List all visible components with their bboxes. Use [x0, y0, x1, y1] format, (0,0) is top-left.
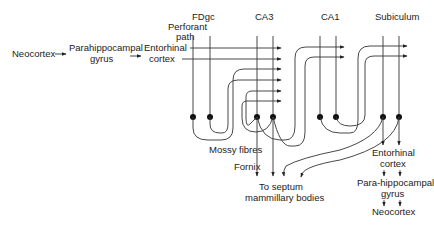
label-entorhinal-output-line1: Entorhinal [372, 147, 415, 158]
label-neocortex-output: Neocortex [372, 206, 416, 217]
label-to-septum: To septum [259, 181, 303, 192]
label-ca3: CA3 [255, 11, 273, 22]
ca1-to-subiculum-2 [336, 56, 407, 126]
schaffer-collateral-1 [257, 47, 344, 140]
label-subiculum: Subiculum [375, 11, 419, 22]
mossy-fibre-2 [210, 80, 281, 133]
ca3-recurrent-collateral-1 [246, 91, 281, 125]
label-parahippocampal-output-line1: Para-hippocampal [357, 177, 434, 188]
label-ca1: CA1 [321, 11, 339, 22]
label-entorhinal-input-line2: cortex [149, 53, 175, 64]
label-entorhinal-output-line2: cortex [380, 158, 406, 169]
label-mammillary-bodies: mammillary bodies [245, 192, 324, 203]
label-parahippocampal-input-line2: gyrus [90, 53, 113, 64]
label-perforant-path-line2: path [176, 31, 195, 42]
label-neocortex-input: Neocortex [12, 48, 56, 59]
label-parahippocampal-input-line1: Parahippocampal [69, 42, 143, 53]
hippocampal-circuit-diagram: Neocortex Parahippocampal gyrus Entorhin… [0, 0, 434, 228]
label-parahippocampal-output-line2: gyrus [381, 188, 404, 199]
label-mossy-fibres: Mossy fibres [209, 144, 263, 155]
label-entorhinal-input-line1: Entorhinal [144, 42, 187, 53]
label-fdgc: FDgc [192, 11, 215, 22]
subiculum-to-septum-1 [284, 117, 383, 176]
